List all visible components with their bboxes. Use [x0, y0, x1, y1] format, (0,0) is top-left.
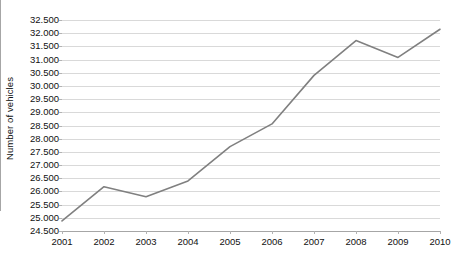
x-axis-tick-mark	[230, 231, 231, 234]
y-axis-tick-label: 26.000	[30, 187, 59, 197]
x-axis-tick-mark	[398, 231, 399, 234]
x-axis-tick-mark	[272, 231, 273, 234]
y-axis-tick-label: 25.000	[30, 213, 59, 223]
y-axis-tick-label: 25.500	[30, 200, 59, 210]
x-axis-tick-marks	[62, 231, 440, 235]
y-axis-tick-label: 31.000	[30, 55, 59, 65]
x-axis-tick-mark	[314, 231, 315, 234]
x-axis-tick-label: 2008	[345, 236, 366, 247]
x-axis-tick-label: 2010	[429, 236, 450, 247]
y-axis-tick-label: 29.000	[30, 108, 59, 118]
x-axis-tick-label: 2002	[93, 236, 114, 247]
x-axis-tick-labels: 2001200220032004200520062007200820092010	[62, 236, 440, 252]
x-axis-tick-mark	[146, 231, 147, 234]
y-axis-tick-label: 26.500	[30, 174, 59, 184]
x-axis-tick-label: 2004	[177, 236, 198, 247]
y-axis-tick-label: 28.500	[30, 121, 59, 131]
series-line-vehicles	[62, 20, 440, 231]
y-axis-tick-label: 32.500	[30, 15, 59, 25]
x-axis-tick-mark	[104, 231, 105, 234]
y-axis-tick-label: 30.500	[30, 68, 59, 78]
y-axis-tick-label: 27.000	[30, 160, 59, 170]
y-axis-tick-label: 28.000	[30, 134, 59, 144]
x-axis-tick-label: 2001	[51, 236, 72, 247]
x-axis-tick-label: 2005	[219, 236, 240, 247]
x-axis-tick-label: 2007	[303, 236, 324, 247]
y-axis-tick-label: 24.500	[30, 226, 59, 236]
y-axis-tick-label: 27.500	[30, 147, 59, 157]
x-axis-tick-label: 2003	[135, 236, 156, 247]
y-axis-line	[0, 0, 1, 211]
x-axis-tick-label: 2009	[387, 236, 408, 247]
x-axis-tick-mark	[440, 231, 441, 234]
y-axis-title: Number of vehicles	[0, 0, 20, 236]
y-axis-tick-label: 32.000	[30, 28, 59, 38]
y-axis-tick-label: 30.000	[30, 81, 59, 91]
y-axis-tick-label: 31.500	[30, 42, 59, 52]
plot-area	[62, 20, 440, 231]
line-chart-figure: Number of vehicles 24.50025.00025.50026.…	[0, 0, 455, 256]
y-axis-tick-label: 29.500	[30, 94, 59, 104]
y-axis-title-text: Number of vehicles	[5, 76, 16, 159]
x-axis-tick-mark	[356, 231, 357, 234]
x-axis-tick-mark	[188, 231, 189, 234]
x-axis-tick-label: 2006	[261, 236, 282, 247]
x-axis-tick-mark	[62, 231, 63, 234]
y-axis-tick-labels: 24.50025.00025.50026.00026.50027.00027.5…	[20, 20, 62, 231]
